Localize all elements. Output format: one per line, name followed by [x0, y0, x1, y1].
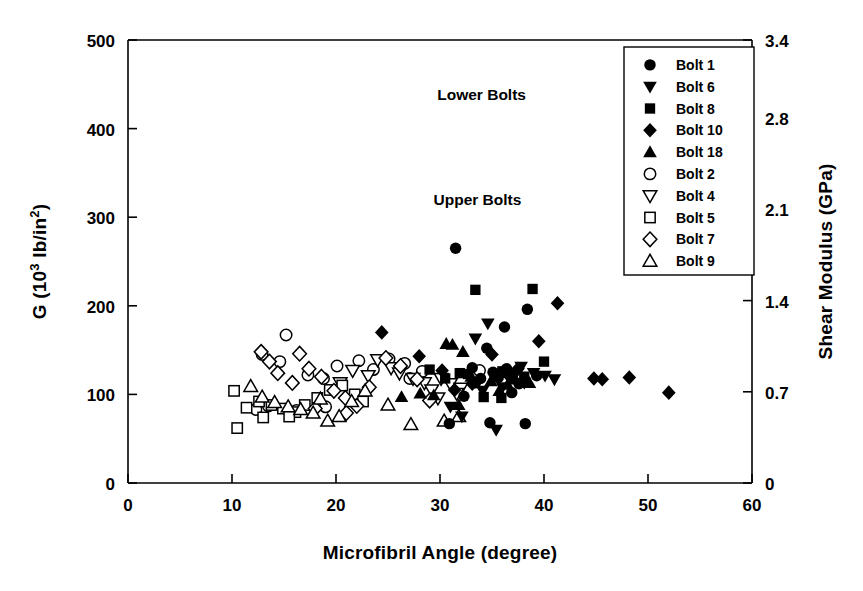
annotation-lower-bolts: Lower Bolts: [437, 86, 526, 103]
data-point: [404, 418, 418, 430]
data-point: [381, 398, 395, 410]
x-tick-label: 30: [431, 496, 450, 515]
data-point: [662, 385, 676, 400]
data-point: [527, 284, 537, 294]
data-point: [395, 390, 409, 402]
y-tick-label: 200: [87, 298, 115, 317]
x-axis-title: Microfibril Angle (degree): [323, 542, 558, 563]
legend-marker-bolt-8: [645, 103, 655, 113]
data-point: [489, 425, 503, 437]
legend: Bolt 1Bolt 6Bolt 8Bolt 10Bolt 18Bolt 2Bo…: [624, 47, 754, 275]
plot-canvas: 0102030405060010020030040050000.71.42.12…: [0, 0, 863, 591]
annotation-upper-bolts: Upper Bolts: [434, 191, 522, 208]
legend-label-bolt-7: Bolt 7: [676, 231, 715, 247]
y-tick-label: 500: [87, 32, 115, 51]
data-point: [258, 412, 268, 422]
x-tick-label: 40: [535, 496, 554, 515]
data-point: [271, 366, 285, 381]
data-point: [532, 334, 546, 349]
y2-axis-title: Shear Modulus (GPa): [815, 164, 836, 360]
data-point: [241, 403, 251, 413]
data-point: [551, 296, 565, 311]
data-point: [548, 374, 562, 386]
y2-tick-label: 0: [765, 475, 774, 494]
scatter-plot-figure: 0102030405060010020030040050000.71.42.12…: [0, 0, 863, 591]
data-point: [456, 345, 470, 357]
data-point: [232, 423, 242, 433]
data-point: [346, 365, 360, 377]
data-point: [470, 285, 480, 295]
y-axis-left-ticks: 0100200300400500: [87, 32, 137, 494]
y-tick-label: 100: [87, 386, 115, 405]
legend-label-bolt-18: Bolt 18: [676, 144, 723, 160]
x-tick-label: 50: [639, 496, 658, 515]
data-point: [244, 380, 258, 392]
legend-label-bolt-1: Bolt 1: [676, 57, 715, 73]
y2-tick-label: 2.1: [765, 201, 789, 220]
y2-tick-label: 1.4: [765, 293, 789, 312]
data-point: [481, 318, 495, 330]
data-point: [424, 364, 434, 374]
data-point: [284, 411, 294, 421]
legend-label-bolt-9: Bolt 9: [676, 253, 715, 269]
y-tick-label: 400: [87, 121, 115, 140]
y2-tick-label: 0.7: [765, 384, 789, 403]
legend-label-bolt-5: Bolt 5: [676, 210, 715, 226]
data-series-layer: [229, 242, 676, 436]
legend-label-bolt-10: Bolt 10: [676, 122, 723, 138]
x-tick-label: 60: [743, 496, 762, 515]
legend-label-bolt-2: Bolt 2: [676, 166, 715, 182]
data-point: [450, 242, 461, 253]
y-axis-title: G (103 lb/in2): [27, 204, 50, 319]
data-point: [469, 334, 483, 346]
x-tick-label: 10: [223, 496, 242, 515]
data-point: [229, 386, 239, 396]
legend-label-bolt-4: Bolt 4: [676, 188, 715, 204]
x-tick-label: 0: [123, 496, 132, 515]
data-point: [520, 418, 531, 429]
data-point: [293, 346, 307, 361]
legend-label-bolt-6: Bolt 6: [676, 79, 715, 95]
x-tick-label: 20: [327, 496, 346, 515]
y2-tick-label: 2.8: [765, 110, 789, 129]
legend-label-bolt-8: Bolt 8: [676, 101, 715, 117]
y-tick-label: 300: [87, 209, 115, 228]
data-point: [444, 418, 455, 429]
legend-marker-bolt-1: [644, 59, 655, 70]
y-tick-label: 0: [106, 475, 115, 494]
plot-annotations: Lower BoltsUpper Bolts: [434, 86, 526, 208]
y2-tick-label: 3.4: [765, 32, 789, 51]
data-point: [539, 356, 549, 366]
data-point: [286, 376, 300, 391]
data-point: [479, 392, 489, 402]
data-point: [595, 372, 609, 387]
data-point: [331, 360, 342, 371]
data-point: [412, 349, 426, 364]
data-point: [522, 304, 533, 315]
data-point: [280, 329, 291, 340]
data-point: [375, 325, 389, 340]
data-point: [622, 370, 636, 385]
data-point: [499, 321, 510, 332]
legend-marker-bolt-5: [645, 212, 655, 222]
x-axis-ticks: 0102030405060: [123, 474, 761, 515]
data-point: [458, 390, 469, 401]
legend-marker-bolt-2: [644, 168, 655, 179]
